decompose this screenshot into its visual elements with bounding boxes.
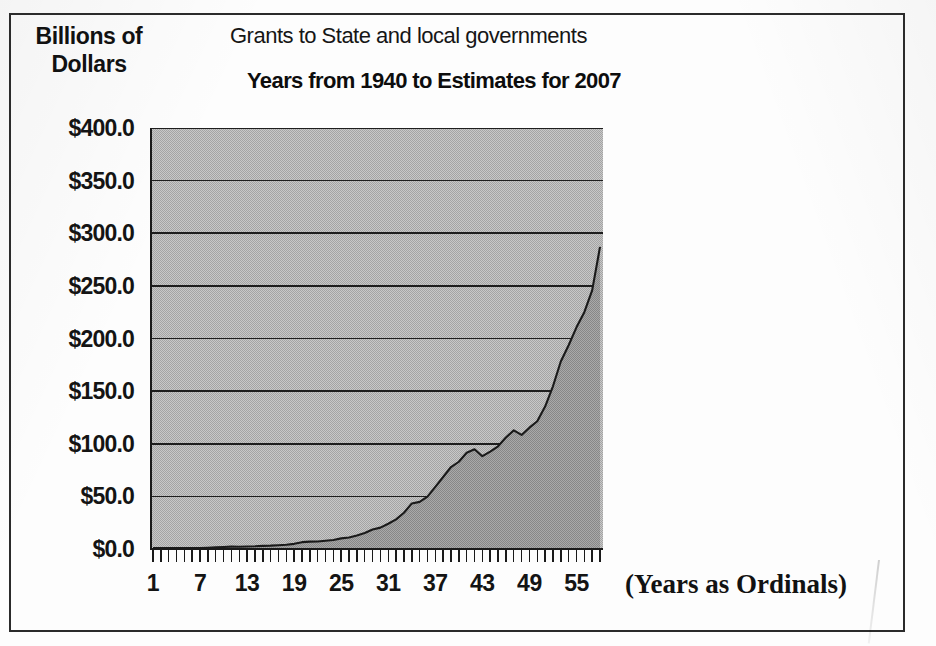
y-axis-tick-label: $250.0 [12, 272, 134, 299]
y-axis-tick-label: $400.0 [12, 115, 134, 142]
x-axis-tick-label: 43 [470, 570, 495, 597]
x-axis-tick-label: 19 [282, 570, 307, 597]
x-axis-tick-label: 25 [329, 570, 354, 597]
area-chart-svg [150, 128, 603, 568]
chart-title: Grants to State and local governments [230, 23, 587, 49]
y-axis-title: Billions of Dollars [14, 22, 164, 78]
x-axis-tick-label: 31 [376, 570, 401, 597]
x-axis-tick-label: 13 [235, 570, 260, 597]
y-axis-tick-label: $0.0 [12, 536, 134, 563]
x-axis-tick-label: 37 [423, 570, 448, 597]
y-axis-tick-label: $150.0 [12, 378, 134, 405]
x-axis-tick-label: 1 [147, 570, 159, 597]
chart-subtitle: Years from 1940 to Estimates for 2007 [247, 68, 621, 94]
x-axis-tick-label: 49 [517, 570, 542, 597]
y-axis-tick-label: $300.0 [12, 220, 134, 247]
x-axis-title: (Years as Ordinals) [625, 569, 847, 600]
x-axis-tick-label: 55 [564, 570, 589, 597]
x-axis-tick-labels: 171319253137434955 [150, 570, 603, 602]
y-axis-tick-label: $200.0 [12, 325, 134, 352]
plot-area [150, 128, 603, 550]
x-axis-tick-marks [153, 549, 600, 562]
y-axis-tick-label: $100.0 [12, 430, 134, 457]
y-axis-tick-label: $350.0 [12, 167, 134, 194]
x-axis-tick-label: 7 [194, 570, 206, 597]
y-axis-tick-label: $50.0 [12, 483, 134, 510]
